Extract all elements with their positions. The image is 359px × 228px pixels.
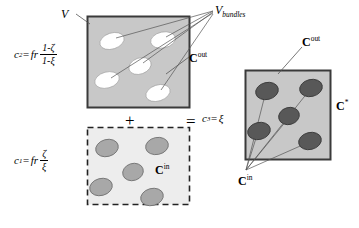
formula-c2-numerator: 1-ζ <box>40 42 56 54</box>
formula-c3-equals: = <box>210 112 217 124</box>
formula-c2: c2 = fr 1-ζ 1-ξ <box>14 42 57 66</box>
label-c-out-top-superscript: out <box>198 50 208 59</box>
label-c-in-right: Cin <box>238 174 252 187</box>
label-c-in-dashed: Cin <box>155 163 169 176</box>
formula-c2-coefficient: fr <box>31 48 38 60</box>
label-c-out-right-base: C <box>302 35 311 49</box>
formula-c1: c1 = fr ζ ξ <box>14 148 48 172</box>
label-v-bundles-subscript: bundles <box>222 10 245 19</box>
label-c-in-right-base: C <box>238 174 247 188</box>
label-c-out-right: Cout <box>302 35 320 48</box>
label-c-in-right-superscript: in <box>247 173 253 182</box>
formula-c1-fraction: ζ ξ <box>40 148 48 172</box>
operator-equals: = <box>186 113 196 130</box>
label-c-star: C* <box>336 99 348 112</box>
label-c-out-right-superscript: out <box>311 34 321 43</box>
label-c-star-superscript: * <box>345 98 349 107</box>
label-v: V <box>61 8 68 20</box>
operator-plus: + <box>125 112 135 129</box>
label-v-bundles: Vbundles <box>215 4 245 19</box>
label-c-star-base: C <box>336 99 345 113</box>
formula-c2-denominator: 1-ξ <box>40 55 57 67</box>
formula-c2-fraction: 1-ζ 1-ξ <box>40 42 57 66</box>
formula-c3-rhs: ξ <box>219 112 224 124</box>
label-c-out-top-base: C <box>189 51 198 65</box>
formula-c1-coefficient: fr <box>31 154 38 166</box>
label-c-out-top: Cout <box>189 51 207 64</box>
label-c-in-dashed-base: C <box>155 163 164 177</box>
formula-c1-equals: = <box>22 154 29 166</box>
formula-c2-equals: = <box>22 48 29 60</box>
label-c-in-dashed-superscript: in <box>164 162 170 171</box>
formula-c1-numerator: ζ <box>40 148 48 160</box>
formula-c3: c3 = ξ <box>202 112 223 124</box>
figure-canvas: V Vbundles Cout Cin Cout C* Cin + = c2 =… <box>0 0 359 228</box>
formula-c1-denominator: ξ <box>40 161 48 173</box>
